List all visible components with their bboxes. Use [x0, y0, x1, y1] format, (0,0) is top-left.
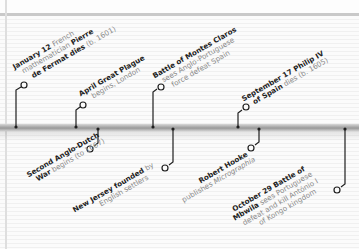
connector-fermat	[14, 82, 27, 129]
connector-mbwila	[334, 127, 347, 193]
connector-new-jersey	[162, 127, 175, 171]
connector-hooke	[248, 127, 261, 151]
connector-plague	[74, 102, 86, 129]
